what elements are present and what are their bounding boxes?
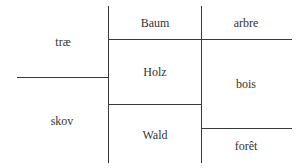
boundary-trae-skov xyxy=(17,77,109,78)
boundary-holz-wald xyxy=(108,104,202,105)
word-baum: Baum xyxy=(141,16,170,30)
divider-danish-german xyxy=(108,6,109,163)
boundary-bois-foret xyxy=(201,128,292,129)
word-trae: træ xyxy=(55,35,70,49)
word-foret: forêt xyxy=(235,139,258,153)
word-wald: Wald xyxy=(142,128,167,142)
word-holz: Holz xyxy=(143,65,166,79)
divider-german-french xyxy=(201,6,202,163)
word-arbre: arbre xyxy=(234,16,259,30)
word-skov: skov xyxy=(51,114,74,128)
boundary-baum-holz-arbre-bois xyxy=(108,39,292,40)
word-bois: bois xyxy=(236,77,256,91)
